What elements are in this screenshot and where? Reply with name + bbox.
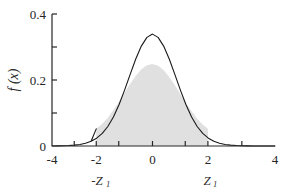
- x-ticklabel-minus4: -4: [47, 152, 58, 167]
- normal-distribution-figure: 0.4 0.2 0 -4 -2 0 2 4 f (x) -Z 1 Z 1: [0, 0, 290, 196]
- left-critical-subscript: 1: [106, 179, 110, 189]
- x-ticklabel-zero: 0: [149, 152, 156, 167]
- svg-text:f (x): f (x): [6, 68, 22, 91]
- y-ticklabel-0: 0: [40, 139, 47, 154]
- x-ticklabel-minus2: -2: [91, 152, 102, 167]
- x-ticklabel-two: 2: [205, 152, 212, 167]
- svg-text:-Z: -Z: [91, 173, 103, 188]
- distribution-plot: 0.4 0.2 0 -4 -2 0 2 4 f (x) -Z 1 Z 1: [0, 0, 290, 196]
- y-axis-ticks: [52, 14, 57, 113]
- x-ticklabel-four: 4: [272, 152, 279, 167]
- y-ticklabel-0.2: 0.2: [30, 73, 46, 88]
- annotation-left-critical-value: -Z 1: [91, 173, 110, 189]
- y-axis-title: f (x): [6, 68, 22, 91]
- y-ticklabel-0.4: 0.4: [30, 7, 47, 22]
- shaded-area-region: [96, 64, 208, 146]
- clipped-caption-line: [0, 189, 290, 196]
- right-critical-subscript: 1: [213, 179, 217, 189]
- svg-text:Z: Z: [203, 173, 211, 188]
- annotation-right-critical-value: Z 1: [203, 173, 217, 189]
